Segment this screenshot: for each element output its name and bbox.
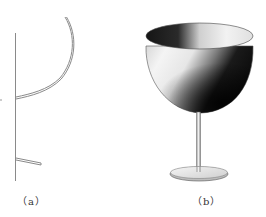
wine-glass-render (133, 0, 266, 217)
bowl-profile-inner (16, 17, 74, 99)
caption-b: （b） (192, 193, 221, 208)
panel-a-profile: （a） (0, 0, 133, 217)
stem (197, 112, 201, 170)
stem-joint (197, 167, 201, 172)
caption-a: （a） (17, 193, 46, 208)
bowl-profile-outer (16, 17, 72, 97)
bowl-shadow (146, 46, 253, 113)
profile-curve-diagram (0, 0, 133, 217)
panel-b-3d-glass: （b） (133, 0, 266, 217)
bowl-rim-opening (146, 23, 253, 49)
